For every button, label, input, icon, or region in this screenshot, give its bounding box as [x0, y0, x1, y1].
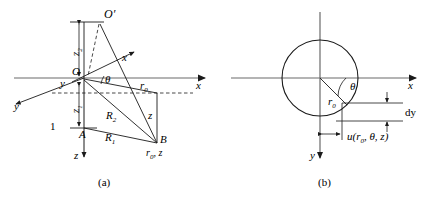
label-tick-one: 1 [50, 121, 56, 132]
label-y-axis-inner: y [60, 78, 65, 89]
label-o-prime: O′ [104, 8, 115, 20]
R1-segment [84, 128, 157, 143]
label-point-a: A [79, 129, 86, 140]
label-u-function: u(r0, θ, z) [347, 131, 388, 145]
label-z2-main: z [69, 52, 81, 56]
label-dy: dy [405, 107, 416, 118]
label-y-axis-outer: y [14, 101, 19, 112]
o-prime-dashed-line [88, 24, 99, 76]
label-x-axis: x [408, 80, 413, 91]
label-u-main: u(r [347, 130, 360, 142]
panel-a: O′ O x x y y z θ r0 A B r0, z R1 R2 z 1 … [0, 0, 218, 199]
label-theta: θ [105, 74, 110, 85]
label-x-axis-outer: x [196, 80, 201, 91]
label-z1-sub: 1 [76, 105, 84, 109]
label-R1-sub: 1 [112, 138, 116, 146]
theta-arc [338, 78, 346, 96]
label-R2-sub: 2 [113, 116, 117, 124]
panel-a-lines [0, 0, 218, 199]
label-r0-sub: 0 [332, 102, 336, 110]
label-z-axis: z [74, 150, 78, 161]
label-x-axis-inclined: x [122, 52, 127, 63]
label-u-tail: , θ, z) [364, 130, 388, 142]
label-R1: R1 [105, 132, 115, 146]
figure-container: O′ O x x y y z θ r0 A B r0, z R1 R2 z 1 … [0, 0, 435, 199]
label-b-coordinates: r0, z [146, 148, 162, 161]
label-b-coord-tail: , z [153, 147, 162, 158]
label-R2: R2 [106, 110, 116, 124]
caption-panel-b: (b) [318, 176, 331, 188]
y-axis [16, 78, 84, 104]
label-depth-z: z [148, 110, 152, 121]
label-z2-vertical: z2 [70, 48, 84, 56]
label-z1-main: z [69, 109, 81, 113]
panel-b: x y θ r0 dy u(r0, θ, z) (b) [218, 0, 435, 199]
label-R2-main: R [106, 109, 113, 121]
label-z2-sub: 2 [76, 48, 84, 52]
panel-b-lines [218, 0, 435, 199]
label-origin-o: O [72, 66, 80, 77]
label-theta: θ [350, 81, 355, 92]
label-point-b: B [160, 134, 167, 145]
label-r0-sub: 0 [144, 86, 148, 94]
label-r0: r0 [328, 96, 336, 110]
caption-panel-a: (a) [98, 176, 110, 188]
label-r0: r0 [140, 80, 148, 94]
label-y-axis: y [310, 150, 315, 161]
label-R1-main: R [105, 131, 112, 143]
label-z1-vertical: z1 [70, 105, 84, 113]
